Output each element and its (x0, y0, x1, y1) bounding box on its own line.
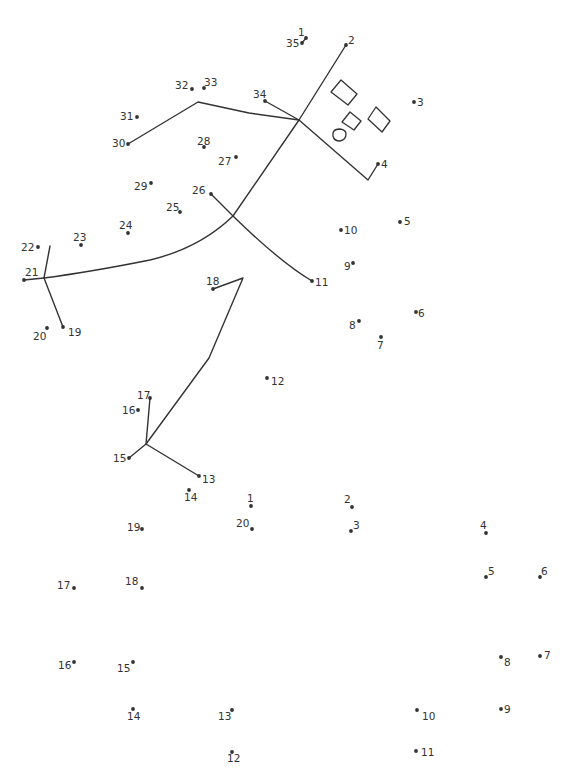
dot-29 (149, 181, 153, 185)
dot-21 (22, 278, 26, 282)
dot-26 (209, 192, 213, 196)
dot-number-label: 13 (218, 710, 231, 722)
dot-number-label: 23 (73, 231, 86, 243)
dot-35 (300, 41, 304, 45)
dot-number-label: 18 (206, 275, 219, 287)
dot-30 (126, 142, 130, 146)
dot-1 (249, 504, 253, 508)
dot-9 (499, 707, 503, 711)
dot-number-label: 25 (166, 201, 179, 213)
dot-27 (234, 155, 238, 159)
dot-32 (190, 87, 194, 91)
dot-15 (131, 660, 135, 664)
dot-number-label: 29 (134, 180, 147, 192)
dot-3 (412, 100, 416, 104)
dot-31 (135, 115, 139, 119)
dot-number-label: 6 (541, 565, 548, 577)
dot-8 (357, 319, 361, 323)
dot-number-label: 10 (422, 710, 435, 722)
dot-number-label: 2 (348, 34, 355, 46)
dot-number-label: 24 (119, 219, 133, 231)
dot-15 (127, 456, 131, 460)
dot-10 (415, 708, 419, 712)
dot-number-label: 6 (418, 307, 425, 319)
dot-19 (61, 325, 65, 329)
dot-number-label: 26 (192, 184, 206, 196)
dot-4 (484, 531, 488, 535)
dot-number-label: 14 (127, 710, 141, 722)
dot-number-label: 12 (227, 752, 240, 764)
dot-9 (351, 261, 355, 265)
dot-number-label: 11 (421, 746, 434, 758)
dot-number-label: 17 (137, 389, 150, 401)
dot-16 (136, 408, 140, 412)
dot-number-label: 34 (253, 88, 267, 100)
dot-number-label: 17 (57, 579, 70, 591)
dot-number-label: 3 (417, 96, 424, 108)
dot-number-label: 7 (377, 339, 384, 351)
dot-number-label: 11 (315, 276, 328, 288)
dot-5 (398, 220, 402, 224)
dot-17 (72, 586, 76, 590)
dot-number-label: 21 (25, 266, 38, 278)
dot-16 (72, 660, 76, 664)
dot-number-label: 13 (202, 473, 215, 485)
dot-4 (376, 162, 380, 166)
dot-22 (36, 245, 40, 249)
dot-number-label: 22 (21, 241, 34, 253)
dot-number-label: 8 (349, 319, 356, 331)
dot-number-label: 2 (344, 493, 351, 505)
dot-number-label: 8 (504, 656, 511, 668)
dot-number-label: 15 (113, 452, 126, 464)
dot-7 (538, 654, 542, 658)
dot-number-label: 16 (58, 659, 72, 671)
dot-23 (79, 243, 83, 247)
dot-number-label: 12 (271, 375, 284, 387)
dot-number-label: 9 (504, 703, 511, 715)
dot-number-label: 32 (175, 79, 188, 91)
dot-number-label: 4 (381, 158, 388, 170)
dot-number-label: 3 (353, 519, 360, 531)
dot-number-label: 31 (120, 110, 133, 122)
dot-20 (250, 527, 254, 531)
dot-number-label: 16 (122, 404, 136, 416)
dot-number-label: 20 (236, 517, 249, 529)
dot-number-label: 33 (204, 76, 217, 88)
dot-number-label: 19 (68, 326, 81, 338)
dot-number-label: 15 (117, 662, 130, 674)
dot-24 (126, 231, 130, 235)
dot-10 (339, 228, 343, 232)
dot-13 (197, 474, 201, 478)
dot-number-label: 19 (127, 521, 140, 533)
paper-background (0, 0, 573, 772)
dot-number-label: 27 (218, 155, 231, 167)
dot-number-label: 1 (247, 492, 254, 504)
dot-19 (140, 527, 144, 531)
dot-to-dot-worksheet: 1234567891011121314151617181920212223242… (0, 0, 573, 772)
dot-18 (211, 287, 215, 291)
dot-number-label: 7 (544, 649, 551, 661)
dot-number-label: 10 (344, 224, 357, 236)
dot-number-label: 30 (112, 137, 125, 149)
dot-11 (310, 279, 314, 283)
dot-11 (414, 749, 418, 753)
dot-number-label: 14 (184, 491, 198, 503)
dot-number-label: 35 (286, 37, 299, 49)
dot-number-label: 5 (404, 215, 411, 227)
dot-18 (140, 586, 144, 590)
dot-number-label: 4 (480, 519, 487, 531)
dot-number-label: 5 (488, 565, 495, 577)
dot-number-label: 28 (197, 135, 210, 147)
dot-number-label: 20 (33, 330, 46, 342)
dot-number-label: 18 (125, 575, 138, 587)
dot-8 (499, 655, 503, 659)
dot-12 (265, 376, 269, 380)
dot-number-label: 9 (344, 260, 351, 272)
dot-2 (350, 505, 354, 509)
